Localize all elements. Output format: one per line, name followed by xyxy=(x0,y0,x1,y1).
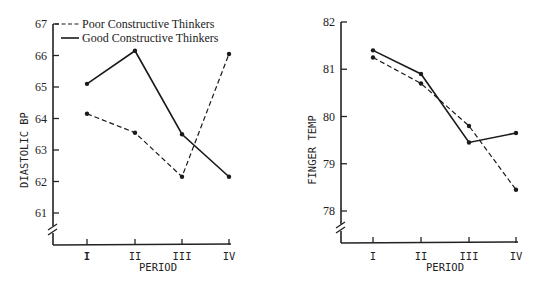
x-category-label: I xyxy=(370,250,376,262)
good-thinkers-line xyxy=(87,51,229,177)
data-point-marker xyxy=(467,140,471,144)
y-tick-label: 66 xyxy=(35,49,47,63)
data-point-marker xyxy=(514,131,518,135)
chart-canvas: 61626364656667IIIIIIIVPERIODDIASTOLIC BP… xyxy=(0,0,543,288)
y-tick-label: 61 xyxy=(35,206,47,220)
data-point-marker xyxy=(180,175,184,179)
y-tick-label: 67 xyxy=(35,17,47,31)
legend: Poor Constructive ThinkersGood Construct… xyxy=(55,17,219,45)
diastolic-bp-chart: 61626364656667IIIIIIIVPERIODDIASTOLIC BP… xyxy=(18,17,236,273)
data-point-marker xyxy=(371,48,375,52)
data-point-marker xyxy=(227,175,231,179)
data-point-marker xyxy=(180,132,184,136)
data-point-marker xyxy=(227,52,231,56)
y-tick-label: 65 xyxy=(35,80,47,94)
y-tick-label: 62 xyxy=(35,175,47,189)
data-point-marker xyxy=(133,49,137,53)
y-axis-title: DIASTOLIC BP xyxy=(18,112,30,188)
y-tick-label: 80 xyxy=(323,110,335,124)
y-tick-label: 81 xyxy=(323,62,335,76)
y-axis-title: FINGER TEMP xyxy=(306,115,318,185)
x-axis xyxy=(341,242,518,243)
x-axis-title: PERIOD xyxy=(426,261,464,273)
data-point-marker xyxy=(85,112,89,116)
legend-entry: Poor Constructive Thinkers xyxy=(82,17,215,31)
y-tick-label: 82 xyxy=(323,15,335,29)
data-point-marker xyxy=(133,130,137,134)
data-point-marker xyxy=(85,82,89,86)
y-tick-label: 79 xyxy=(323,157,335,171)
good-thinkers-line xyxy=(373,50,516,142)
x-axis-title: PERIOD xyxy=(139,261,177,273)
data-point-marker xyxy=(514,188,518,192)
data-point-marker xyxy=(419,72,423,76)
x-category-label: IV xyxy=(510,250,523,262)
poor-thinkers-line xyxy=(373,57,516,189)
x-category-label: IV xyxy=(223,250,236,262)
x-axis xyxy=(53,244,231,245)
data-point-marker xyxy=(419,81,423,85)
y-tick-label: 78 xyxy=(323,204,335,218)
data-point-marker xyxy=(467,124,471,128)
finger-temp-chart: 7879808182IIIIIIIVPERIODFINGER TEMP xyxy=(306,15,523,273)
y-tick-label: 63 xyxy=(35,143,47,157)
x-category-label: I xyxy=(84,250,90,262)
y-tick-label: 64 xyxy=(35,112,47,126)
legend-entry: Good Constructive Thinkers xyxy=(82,31,219,45)
data-point-marker xyxy=(371,55,375,59)
